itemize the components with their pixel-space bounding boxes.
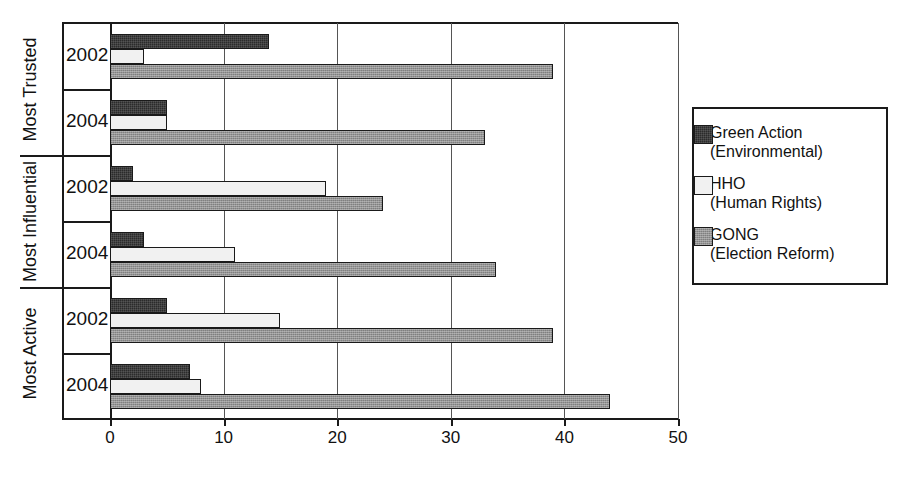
x-tick-50 xyxy=(678,419,680,426)
legend: Green Action(Environmental) HHO(Human Ri… xyxy=(692,107,888,285)
x-tick-label-20: 20 xyxy=(328,428,347,448)
gridline-20 xyxy=(337,23,338,419)
bar-most-active-2002-gong xyxy=(110,328,553,343)
gridline-50 xyxy=(678,23,679,419)
legend-swatch-gong xyxy=(694,227,713,246)
x-tick-label-30: 30 xyxy=(441,428,460,448)
legend-swatch-green-action xyxy=(694,125,713,144)
bar-most-trusted-2004-hho xyxy=(110,115,167,130)
x-tick-30 xyxy=(451,419,453,426)
bar-most-active-2004-gong xyxy=(110,394,610,409)
x-tick-label-50: 50 xyxy=(669,428,688,448)
x-tick-label-40: 40 xyxy=(555,428,574,448)
year-label-most-influential-2004: 2004 xyxy=(66,242,108,264)
bar-most-influential-2004-hho xyxy=(110,247,235,262)
gridline-40 xyxy=(564,23,565,419)
bar-most-influential-2004-green-action xyxy=(110,232,144,247)
year-label-most-influential-2002: 2002 xyxy=(66,176,108,198)
legend-item: HHO(Human Rights) xyxy=(710,174,886,212)
year-separator xyxy=(62,89,110,91)
year-label-most-trusted-2004: 2004 xyxy=(66,110,108,132)
x-tick-0 xyxy=(110,419,112,426)
year-label-most-trusted-2002: 2002 xyxy=(66,44,108,66)
gridline-10 xyxy=(224,23,225,419)
bar-most-influential-2002-hho xyxy=(110,181,326,196)
x-tick-10 xyxy=(224,419,226,426)
bar-most-influential-2002-gong xyxy=(110,196,383,211)
bar-most-trusted-2004-gong xyxy=(110,130,485,145)
x-tick-label-0: 0 xyxy=(105,428,114,448)
bar-most-influential-2004-gong xyxy=(110,262,496,277)
legend-swatch-hho xyxy=(694,176,713,195)
x-tick-40 xyxy=(564,419,566,426)
year-label-most-active-2002: 2002 xyxy=(66,308,108,330)
legend-label-green-action: Green Action(Environmental) xyxy=(710,123,823,161)
bar-most-trusted-2002-gong xyxy=(110,64,553,79)
legend-item: Green Action(Environmental) xyxy=(710,123,886,161)
year-label-most-active-2004: 2004 xyxy=(66,374,108,396)
bar-chart: 01020304050 Most Trusted20022004Most Inf… xyxy=(0,0,905,484)
x-tick-label-10: 10 xyxy=(214,428,233,448)
group-label-most-active: Most Active xyxy=(20,288,41,420)
bar-most-influential-2002-green-action xyxy=(110,166,133,181)
gridline-30 xyxy=(451,23,452,419)
legend-label-hho: HHO(Human Rights) xyxy=(710,174,822,212)
year-separator xyxy=(62,353,110,355)
year-separator xyxy=(62,221,110,223)
x-tick-20 xyxy=(337,419,339,426)
bar-most-trusted-2002-green-action xyxy=(110,34,269,49)
group-label-most-trusted: Most Trusted xyxy=(20,24,41,156)
legend-item: GONG(Election Reform) xyxy=(710,225,886,263)
bar-most-active-2002-hho xyxy=(110,313,280,328)
legend-label-gong: GONG(Election Reform) xyxy=(710,225,834,263)
bar-most-active-2004-green-action xyxy=(110,364,190,379)
bar-most-trusted-2002-hho xyxy=(110,49,144,64)
bar-most-active-2004-hho xyxy=(110,379,201,394)
plot-area xyxy=(110,23,678,419)
bar-most-trusted-2004-green-action xyxy=(110,100,167,115)
bar-most-active-2002-green-action xyxy=(110,298,167,313)
group-label-most-influential: Most Influential xyxy=(20,156,41,288)
